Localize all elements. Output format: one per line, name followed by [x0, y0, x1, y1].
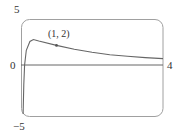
annotation-label: (1, 2) — [48, 29, 70, 39]
x-tick-label-left: 0 — [10, 60, 16, 71]
y-tick-label-top: 5 — [14, 4, 20, 15]
annotation-point-dot — [55, 44, 58, 47]
y-tick-label-bottom: −5 — [13, 121, 25, 132]
chart-plot-area — [0, 0, 181, 137]
x-tick-label-right: 4 — [167, 60, 173, 71]
function-curve — [23, 40, 163, 115]
plot-frame — [22, 20, 164, 117]
